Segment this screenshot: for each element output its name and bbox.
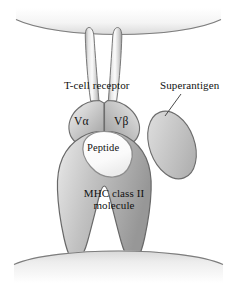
figure-container: T-cell receptor Superantigen Vα Vβ Pepti… (0, 0, 237, 292)
label-superantigen: Superantigen (160, 80, 219, 92)
label-v-alpha: Vα (74, 115, 89, 127)
label-v-beta: Vβ (114, 115, 128, 127)
label-mhc-line-2: molecule (60, 200, 168, 212)
label-peptide: Peptide (87, 142, 119, 153)
antigen-presenting-cell-membrane (14, 251, 223, 284)
label-t-cell-receptor: T-cell receptor (64, 80, 130, 92)
label-mhc-class-ii-molecule: MHC class II molecule (60, 188, 168, 212)
